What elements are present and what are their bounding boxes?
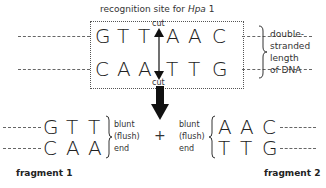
dna-line-top-left: [18, 36, 90, 37]
fragment1-line-bottom: [3, 148, 41, 149]
base: T: [218, 138, 230, 158]
recognition-site-title: recognition site for Hpa 1: [100, 4, 214, 14]
down-arrow-icon: [151, 86, 169, 120]
end-label-line: (flush): [114, 131, 140, 143]
base: C: [95, 59, 109, 79]
end-label-line: blunt: [114, 119, 140, 131]
dna-label-line: of DNA: [270, 64, 310, 76]
base: T: [166, 59, 178, 79]
dna-label-line: stranded: [270, 40, 310, 52]
dna-label-line: double-: [270, 28, 310, 40]
base: A: [218, 117, 232, 137]
base: G: [212, 59, 228, 79]
base: A: [88, 138, 102, 158]
fragment1-line-top: [3, 127, 41, 128]
base: T: [138, 26, 150, 46]
title-text: recognition site for: [100, 4, 188, 14]
right-brace-icon: [258, 25, 268, 79]
title-suffix: 1: [206, 4, 215, 14]
fragment2-line-bottom: [280, 148, 316, 149]
end-label-line: (flush): [179, 131, 205, 143]
fragment2-name: fragment 2: [264, 168, 320, 178]
fragment1-name: fragment 1: [16, 168, 72, 178]
base: G: [262, 138, 278, 158]
base: A: [117, 59, 131, 79]
end-label-line: end: [179, 143, 205, 155]
base: T: [240, 138, 252, 158]
fragment1-end-label: blunt (flush) end: [114, 119, 140, 155]
base: G: [95, 26, 111, 46]
dna-line-bottom-left: [18, 69, 90, 70]
base: A: [138, 59, 152, 79]
plus-sign: +: [154, 127, 166, 143]
end-label-line: blunt: [179, 119, 205, 131]
end-label-line: end: [114, 143, 140, 155]
base: A: [66, 138, 80, 158]
base: A: [188, 26, 202, 46]
base: A: [166, 26, 180, 46]
base: C: [43, 138, 57, 158]
fragment2-end-label: blunt (flush) end: [179, 119, 205, 155]
base: T: [66, 117, 78, 137]
base: T: [188, 59, 200, 79]
base: A: [240, 117, 254, 137]
dna-description: double- stranded length of DNA: [270, 28, 310, 76]
enzyme-name: Hpa: [188, 4, 206, 14]
dna-label-line: length: [270, 52, 310, 64]
double-arrow-icon: [152, 28, 166, 80]
cut-label-top: cut: [152, 19, 165, 28]
fragment1-brace-icon: [105, 115, 113, 159]
base: T: [88, 117, 100, 137]
fragment2-line-top: [280, 127, 316, 128]
base: C: [262, 117, 276, 137]
fragment2-brace-icon: [208, 115, 216, 159]
base: C: [212, 26, 226, 46]
base: T: [117, 26, 129, 46]
base: G: [43, 117, 59, 137]
